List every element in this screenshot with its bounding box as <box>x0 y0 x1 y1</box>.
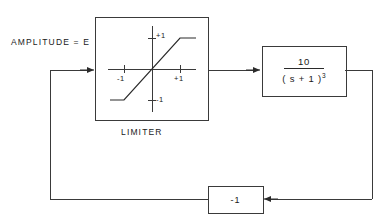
curve-x-positive-tick-label: +1 <box>174 74 184 83</box>
transfer-function-denominator: ( s + 1 )3 <box>282 69 325 85</box>
curve-y-positive-tick-label: +1 <box>156 31 166 40</box>
feedback-block: -1 <box>208 186 263 213</box>
curve-x-negative-tick-label: -1 <box>117 74 125 83</box>
block-diagram-figure: AMPLITUDE = E LIMITER +1 -1 -1 +1 10 ( s… <box>0 0 390 223</box>
curve-y-negative-tick-label: -1 <box>156 95 164 104</box>
feedback-gain-label: -1 <box>208 186 263 213</box>
amplitude-input-label: AMPLITUDE = E <box>11 37 90 47</box>
diagram-canvas <box>0 0 390 223</box>
denominator-base: ( s + 1 ) <box>282 74 322 85</box>
denominator-exponent: 3 <box>322 72 326 79</box>
limiter-block-caption: LIMITER <box>121 127 163 137</box>
transfer-function-numerator: 10 <box>298 56 310 68</box>
transfer-function-expression: 10 ( s + 1 )3 <box>262 46 346 96</box>
